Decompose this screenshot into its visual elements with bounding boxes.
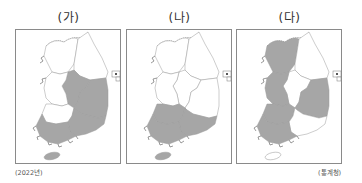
map-panel-da [236, 29, 342, 164]
region-gangwon [74, 32, 108, 80]
panel-title-ga: (가) [15, 8, 122, 25]
map-panel-ga [15, 29, 121, 164]
region-gangwon [295, 32, 329, 80]
year-note: (2022년) [15, 167, 43, 177]
inset-dokdo [337, 77, 341, 81]
inset-dokdo [116, 77, 120, 81]
region-gyeonggi [265, 38, 299, 74]
map-panel-na [126, 29, 232, 164]
panel-title-da: (다) [236, 8, 343, 25]
korea-map [127, 30, 231, 163]
ulleungdo-icon [336, 73, 338, 75]
ulleungdo-icon [115, 73, 117, 75]
region-gyeonggi [44, 38, 78, 74]
korea-map [237, 30, 341, 163]
region-gyeonggi [155, 38, 189, 74]
region-jeju [43, 151, 60, 161]
panel-title-na: (나) [126, 8, 233, 25]
korea-map [16, 30, 120, 163]
ulleungdo-icon [226, 73, 228, 75]
region-jeju [154, 151, 171, 161]
inset-dokdo [227, 77, 231, 81]
region-jeju [264, 151, 281, 161]
source-note: (통계청) [318, 167, 341, 177]
region-gangwon [185, 32, 219, 80]
